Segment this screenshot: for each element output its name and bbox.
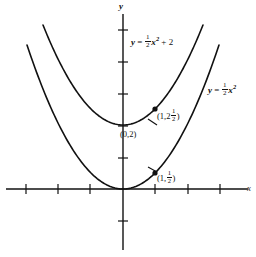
equation-lower-equals: =: [212, 85, 221, 95]
x-axis-label: x: [247, 185, 251, 193]
label-point-lower-numerator: 1: [167, 170, 172, 177]
parabola-figure: y x y=12x2+2 y=12x2 (0,2) (1,212) (1,12): [0, 0, 256, 257]
equation-upper-coef-denominator: 2: [145, 41, 151, 49]
equation-upper-plus: +: [159, 37, 168, 47]
equation-upper-coefficient: 12: [145, 34, 151, 49]
label-vertex-upper-parabola: (0,2): [120, 130, 136, 139]
label-point-upper-parabola: (1,212): [157, 108, 180, 122]
label-point-lower-close: ): [173, 173, 176, 183]
label-point-upper-denominator: 2: [171, 115, 176, 123]
equation-lower-coefficient: 12: [222, 82, 228, 97]
y-axis-label: y: [119, 2, 123, 11]
equation-lower-coef-denominator: 2: [222, 89, 228, 97]
label-point-upper-fraction: 12: [171, 108, 176, 122]
equation-upper-equals: =: [135, 37, 144, 47]
label-point-lower-open: (1,: [157, 173, 166, 183]
label-point-upper-close: ): [177, 111, 180, 121]
equation-lower-exponent: 2: [233, 83, 236, 90]
leader-line-lower: [148, 167, 157, 172]
equation-lower-coef-numerator: 1: [222, 82, 228, 89]
label-point-lower-denominator: 2: [167, 177, 172, 185]
label-point-upper-open: (1,2: [157, 111, 170, 121]
equation-upper-constant: 2: [169, 37, 174, 47]
leader-line-upper: [148, 119, 157, 125]
equation-upper-parabola: y=12x2+2: [131, 34, 173, 49]
equation-lower-parabola: y=12x2: [208, 82, 236, 97]
label-point-lower-parabola: (1,12): [157, 170, 175, 184]
equation-upper-coef-numerator: 1: [145, 34, 151, 41]
label-point-lower-fraction: 12: [167, 170, 172, 184]
label-point-upper-numerator: 1: [171, 108, 176, 115]
